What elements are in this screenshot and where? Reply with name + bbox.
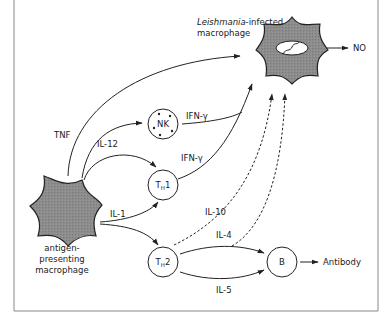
antigen-presenting-macrophage <box>30 176 102 246</box>
infected-macrophage-label: Leishmania-infected <box>197 17 283 27</box>
tnf-label: TNF <box>53 130 71 140</box>
ifn-th1-label: IFN-γ <box>181 153 203 163</box>
il1-to-th2-arrow <box>100 224 158 245</box>
no-label: NO <box>353 43 366 53</box>
il10-label: IL-10 <box>205 207 226 217</box>
il1-label: IL-1 <box>110 209 126 219</box>
infected-macrophage-label-line2: macrophage <box>197 28 250 38</box>
th1-cell: TH1 <box>148 170 178 200</box>
il1-to-th1-arrow <box>100 202 158 222</box>
infected-macrophage <box>256 17 328 84</box>
leishmania-immune-diagram: Leishmania-infected macrophage NO antige… <box>0 0 388 321</box>
b-cell: B <box>267 247 297 277</box>
il4-arrow <box>180 246 264 254</box>
apc-label-line1: antigen- <box>44 243 79 253</box>
apc-label-line3: macrophage <box>35 265 88 275</box>
th2-cell: TH2 <box>148 247 178 277</box>
nk-cell: NK <box>148 109 178 139</box>
apc-label-line2: presenting <box>39 254 84 264</box>
ifn-th1-arrow <box>178 84 252 179</box>
svg-text:B: B <box>279 257 285 267</box>
il12-to-th1-arrow <box>84 155 156 180</box>
il4-label: IL-4 <box>216 230 232 240</box>
il5-arrow <box>180 270 264 279</box>
il5-label: IL-5 <box>216 285 232 295</box>
il12-label: IL-12 <box>97 139 118 149</box>
il4-dashed-arrow <box>232 94 285 246</box>
ifn-nk-label: IFN-γ <box>186 111 208 121</box>
nk-label: NK <box>157 119 169 129</box>
il12-to-nk-arrow <box>82 123 142 178</box>
antibody-label: Antibody <box>323 257 361 267</box>
